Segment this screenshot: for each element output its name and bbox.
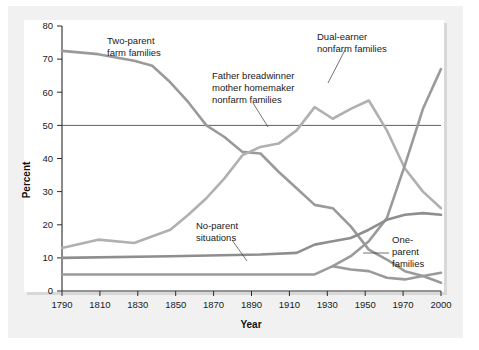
- annotation-line: Two-parent: [107, 35, 155, 46]
- annotation-line: One-: [392, 234, 413, 245]
- annotation-line: No-parent: [196, 220, 239, 231]
- series-line: [62, 213, 441, 258]
- x-axis-title: Year: [240, 319, 261, 330]
- annotation-line: mother homemaker: [212, 82, 294, 93]
- annotation-line: parent: [392, 246, 419, 257]
- annotation-father-breadwinner: Father breadwinner mother homemaker nonf…: [212, 70, 294, 105]
- x-tick-label: 2000: [430, 299, 451, 310]
- annotation-line: nonfarm families: [317, 43, 387, 54]
- series-line: [62, 266, 441, 279]
- x-tick-label: 1790: [51, 299, 72, 310]
- annotation-no-parent-situations: No-parent situations: [196, 220, 239, 243]
- x-tick-label: 1830: [127, 299, 148, 310]
- annotation-line: farm families: [107, 47, 161, 58]
- y-tick-label: 0: [48, 285, 53, 296]
- x-axis-tick-labels: 1790 1810 1830 1850 1870 1890 1910 1930 …: [51, 299, 451, 310]
- series-line: [333, 69, 441, 266]
- annotation-dual-earner: Dual-earner nonfarm families: [317, 31, 387, 54]
- y-axis-tick-labels: 0 10 20 30 40 50 60 70 80: [42, 20, 53, 296]
- y-tick-label: 70: [42, 53, 53, 64]
- y-tick-label: 50: [42, 120, 53, 131]
- y-axis-title: Percent: [21, 161, 32, 198]
- y-tick-label: 40: [42, 153, 53, 164]
- annotation-line: nonfarm families: [212, 94, 282, 105]
- x-tick-label: 1850: [165, 299, 186, 310]
- y-tick-label: 20: [42, 219, 53, 230]
- annotation-line: Father breadwinner: [212, 70, 294, 81]
- annotation-line: Dual-earner: [317, 31, 367, 42]
- leader-dual-earner: [328, 50, 345, 83]
- x-tick-label: 1930: [317, 299, 338, 310]
- x-axis-ticks: [62, 291, 441, 296]
- figure-container: 0 10 20 30 40 50 60 70 80 Percent: [0, 0, 479, 350]
- series-line: [62, 101, 441, 248]
- x-tick-label: 1870: [203, 299, 224, 310]
- annotation-line: situations: [196, 232, 236, 243]
- line-chart: 0 10 20 30 40 50 60 70 80 Percent: [0, 0, 479, 350]
- annotation-two-parent-farm-families: Two-parent farm families: [107, 35, 161, 58]
- leader-father-breadwinner: [253, 103, 268, 127]
- y-tick-label: 60: [42, 87, 53, 98]
- x-tick-label: 1950: [355, 299, 376, 310]
- y-tick-label: 30: [42, 186, 53, 197]
- leader-no-parent: [232, 240, 247, 261]
- annotation-line: families: [392, 258, 424, 269]
- y-tick-label: 80: [42, 20, 53, 31]
- annotation-one-parent-families: One- parent families: [392, 234, 424, 269]
- x-tick-label: 1890: [241, 299, 262, 310]
- y-tick-label: 10: [42, 252, 53, 263]
- x-tick-label: 1810: [89, 299, 110, 310]
- x-tick-label: 1910: [279, 299, 300, 310]
- x-tick-label: 1970: [393, 299, 414, 310]
- y-axis-ticks: [57, 26, 62, 291]
